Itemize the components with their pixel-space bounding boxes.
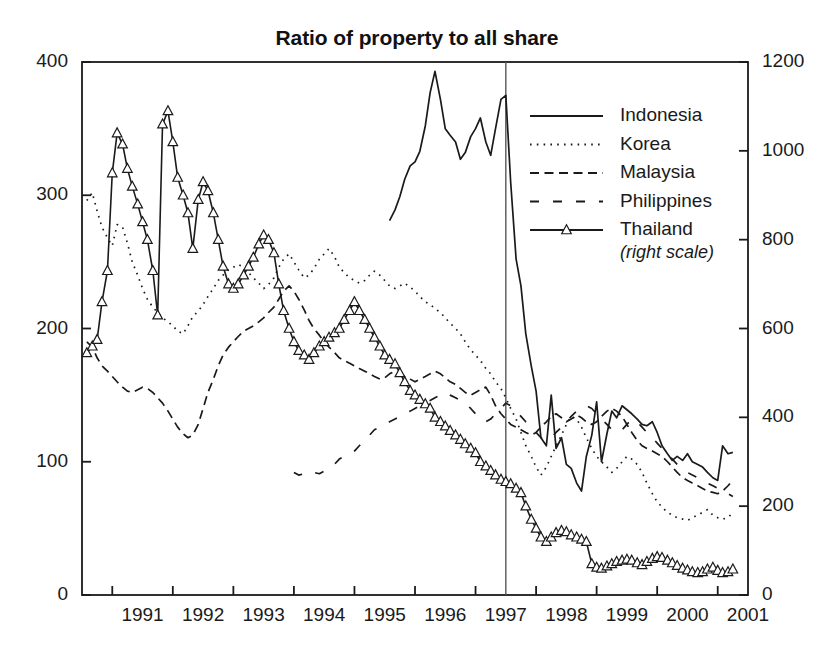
y-axis-right-tick-label: 0 — [762, 583, 773, 605]
data-point-marker — [526, 514, 536, 523]
y-axis-left-tick-label: 100 — [0, 450, 68, 472]
data-point-marker — [118, 139, 128, 148]
data-point-marker — [183, 208, 193, 217]
data-point-marker — [107, 168, 117, 177]
y-axis-right-tick-label: 1000 — [762, 139, 804, 161]
data-point-marker — [163, 106, 173, 115]
data-point-marker — [400, 377, 410, 386]
data-point-marker — [133, 199, 143, 208]
data-point-marker — [178, 190, 188, 199]
data-point-marker — [173, 172, 183, 181]
legend-label-thailand: Thailand — [620, 218, 693, 240]
data-point-marker — [92, 334, 102, 343]
data-point-marker — [289, 337, 299, 346]
y-axis-left-tick-label: 300 — [0, 183, 68, 205]
data-point-marker — [269, 248, 279, 257]
data-point-marker — [375, 341, 385, 350]
plot-canvas — [0, 0, 834, 649]
y-axis-left-tick-label: 0 — [0, 583, 68, 605]
data-point-marker — [244, 261, 254, 270]
data-point-marker — [521, 501, 531, 510]
data-point-marker — [213, 234, 223, 243]
data-point-marker — [148, 266, 158, 275]
data-point-marker — [355, 306, 365, 315]
data-point-marker — [339, 314, 349, 323]
legend-sublabel-right-scale: (right scale) — [620, 242, 714, 263]
data-point-marker — [274, 279, 284, 288]
data-point-marker — [233, 279, 243, 288]
y-axis-left-tick-label: 400 — [0, 50, 68, 72]
x-axis-tick-label: 2001 — [708, 604, 788, 626]
data-point-marker — [360, 314, 370, 323]
y-axis-right-tick-label: 400 — [762, 405, 794, 427]
legend-label-philippines: Philippines — [620, 190, 712, 212]
legend-label-malaysia: Malaysia — [620, 161, 695, 183]
data-point-marker — [239, 270, 249, 279]
data-point-marker — [254, 239, 264, 248]
data-point-marker — [249, 252, 259, 261]
data-point-marker — [531, 523, 541, 532]
data-point-marker — [365, 323, 375, 332]
y-axis-right-tick-label: 600 — [762, 317, 794, 339]
data-point-marker — [209, 208, 219, 217]
y-axis-right-tick-label: 800 — [762, 228, 794, 250]
legend-line-swatches — [530, 116, 603, 234]
y-axis-right-tick-label: 200 — [762, 494, 794, 516]
data-point-marker — [284, 323, 294, 332]
data-point-marker — [123, 163, 133, 172]
series-line-philippines — [294, 392, 733, 496]
data-point-marker — [153, 310, 163, 319]
data-point-marker — [395, 368, 405, 377]
data-point-marker — [112, 128, 122, 137]
legend-label-korea: Korea — [620, 133, 671, 155]
data-point-marker — [168, 137, 178, 146]
data-point-marker — [188, 243, 198, 252]
y-axis-right-tick-label: 1200 — [762, 50, 804, 72]
data-point-marker — [138, 217, 148, 226]
data-point-marker — [198, 177, 208, 186]
data-point-marker — [203, 186, 213, 195]
legend-label-indonesia: Indonesia — [620, 104, 702, 126]
data-point-marker — [103, 266, 113, 275]
y-axis-left-tick-label: 200 — [0, 317, 68, 339]
chart-figure: Ratio of property to all share 010020030… — [0, 0, 834, 649]
data-point-marker — [158, 119, 168, 128]
data-point-marker — [335, 323, 345, 332]
data-point-marker — [218, 261, 228, 270]
data-point-marker — [193, 194, 203, 203]
data-point-marker — [143, 234, 153, 243]
data-point-marker — [370, 332, 380, 341]
data-point-marker — [279, 306, 289, 315]
data-point-marker — [97, 297, 107, 306]
data-point-marker — [127, 181, 137, 190]
data-point-marker — [345, 306, 355, 315]
data-point-marker — [350, 297, 360, 306]
